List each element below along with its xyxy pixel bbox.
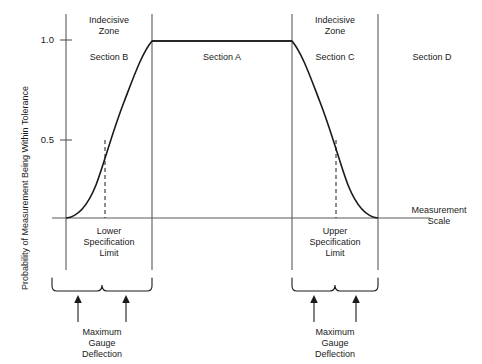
section-d-label: Section D	[392, 52, 472, 63]
left-deflection-arrow-1-head	[74, 295, 82, 303]
upper-spec-limit-line2: Specification	[295, 237, 375, 248]
section-a-label: Section A	[182, 52, 262, 63]
x-axis-label-line2: Scale	[396, 216, 482, 227]
indecisive-zone-left-line1: Indecisive	[69, 15, 149, 26]
left-deflection-brace	[52, 278, 152, 291]
lower-spec-limit-line2: Specification	[69, 237, 149, 248]
y-axis-label: Probability of Measurement Being Within …	[20, 86, 30, 290]
right-deflection-brace	[292, 278, 378, 291]
max-gauge-deflection-left-line1: Maximum	[62, 327, 142, 338]
right-deflection-arrow-2-head	[352, 295, 360, 303]
max-gauge-deflection-right-line3: Deflection	[295, 349, 375, 360]
y-tick-label-1.0: 1.0	[22, 34, 54, 45]
max-gauge-deflection-right-line2: Gauge	[295, 338, 375, 349]
lower-spec-limit-line1: Lower	[69, 226, 149, 237]
x-axis-label-line1: Measurement	[396, 205, 482, 216]
upper-spec-limit-line1: Upper	[295, 226, 375, 237]
max-gauge-deflection-right-line1: Maximum	[295, 327, 375, 338]
left-deflection-arrow-2-head	[122, 295, 130, 303]
chart-figure: Probability of Measurement Being Within …	[0, 0, 482, 364]
indecisive-zone-right-line1: Indecisive	[295, 15, 375, 26]
max-gauge-deflection-left-line3: Deflection	[62, 349, 142, 360]
lower-spec-limit-line3: Limit	[69, 248, 149, 259]
section-c-label: Section C	[295, 52, 375, 63]
right-deflection-arrow-1-head	[310, 295, 318, 303]
indecisive-zone-left-line2: Zone	[69, 26, 149, 37]
section-b-label: Section B	[69, 52, 149, 63]
y-tick-label-0.5: 0.5	[22, 134, 54, 145]
indecisive-zone-right-line2: Zone	[295, 26, 375, 37]
max-gauge-deflection-left-line2: Gauge	[62, 338, 142, 349]
upper-spec-limit-line3: Limit	[295, 248, 375, 259]
probability-curve	[66, 41, 378, 218]
